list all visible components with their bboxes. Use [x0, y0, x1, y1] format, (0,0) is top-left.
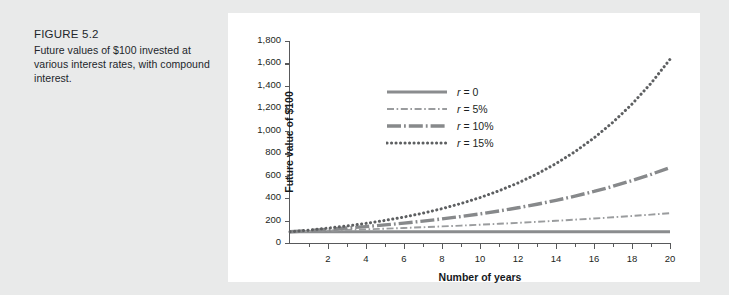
- legend-item: r = 5%: [386, 100, 521, 117]
- legend-label: r = 5%: [457, 103, 488, 115]
- legend-line-sample: [386, 120, 448, 132]
- x-tick-label: 18: [627, 253, 638, 264]
- x-tick-label: 4: [363, 253, 368, 264]
- x-tick-label: 20: [665, 253, 676, 264]
- x-tick-mark-minor: [613, 243, 614, 247]
- figure-description: Future values of $100 invested at variou…: [34, 43, 214, 86]
- x-tick-mark-minor: [537, 243, 538, 247]
- x-tick-mark: [518, 243, 519, 249]
- y-tick-label: 1,000: [257, 124, 281, 135]
- legend-symbol: r: [457, 137, 461, 149]
- legend-label: r = 0: [457, 86, 478, 98]
- x-tick-mark: [404, 243, 405, 249]
- chart-panel: Future value of $100 Number of years 020…: [228, 13, 700, 282]
- y-tick-label: 1,200: [257, 101, 281, 112]
- x-axis-title: Number of years: [290, 271, 670, 283]
- x-tick-mark: [632, 243, 633, 249]
- legend-value: = 5%: [463, 103, 487, 115]
- legend-item: r = 0: [386, 83, 521, 100]
- y-tick-label: 1,800: [257, 34, 281, 45]
- legend-item: r = 10%: [386, 117, 521, 134]
- x-tick-label: 16: [589, 253, 600, 264]
- x-tick-mark: [366, 243, 367, 249]
- x-tick-label: 14: [551, 253, 562, 264]
- legend-symbol: r: [457, 120, 461, 132]
- legend-line-sample: [386, 86, 448, 98]
- x-tick-mark-minor: [309, 243, 310, 247]
- x-tick-mark: [670, 243, 671, 249]
- x-tick-mark-minor: [499, 243, 500, 247]
- x-tick-mark: [328, 243, 329, 249]
- legend-value: = 10%: [463, 120, 493, 132]
- figure-caption: FIGURE 5.2 Future values of $100 investe…: [34, 28, 214, 86]
- chart-legend: r = 0r = 5%r = 10%r = 15%: [386, 83, 521, 151]
- series-line: [290, 168, 670, 232]
- legend-item: r = 15%: [386, 134, 521, 151]
- x-tick-mark-minor: [385, 243, 386, 247]
- legend-line-sample: [386, 137, 448, 149]
- y-tick-label: 1,600: [257, 56, 281, 67]
- y-tick-label: 600: [265, 169, 281, 180]
- y-tick-mark: [285, 243, 290, 244]
- y-tick-label: 1,400: [257, 79, 281, 90]
- plot-area: Future value of $100 Number of years 020…: [289, 41, 670, 244]
- legend-symbol: r: [457, 103, 461, 115]
- x-tick-label: 8: [439, 253, 444, 264]
- x-tick-mark: [594, 243, 595, 249]
- x-tick-mark: [480, 243, 481, 249]
- legend-label: r = 15%: [457, 137, 494, 149]
- x-tick-label: 12: [513, 253, 524, 264]
- figure-number: FIGURE 5.2: [34, 28, 214, 40]
- x-tick-mark-minor: [651, 243, 652, 247]
- x-tick-mark-minor: [461, 243, 462, 247]
- x-tick-mark: [556, 243, 557, 249]
- legend-label: r = 10%: [457, 120, 494, 132]
- y-tick-label: 0: [276, 236, 281, 247]
- legend-value: = 15%: [463, 137, 493, 149]
- x-tick-mark-minor: [423, 243, 424, 247]
- y-tick-label: 800: [265, 146, 281, 157]
- x-tick-mark-minor: [347, 243, 348, 247]
- x-tick-label: 10: [475, 253, 486, 264]
- y-tick-label: 200: [265, 214, 281, 225]
- legend-value: = 0: [463, 86, 478, 98]
- y-tick-label: 400: [265, 191, 281, 202]
- legend-line-sample: [386, 103, 448, 115]
- x-tick-label: 2: [325, 253, 330, 264]
- x-tick-mark-minor: [575, 243, 576, 247]
- legend-symbol: r: [457, 86, 461, 98]
- x-tick-label: 6: [401, 253, 406, 264]
- x-tick-mark: [442, 243, 443, 249]
